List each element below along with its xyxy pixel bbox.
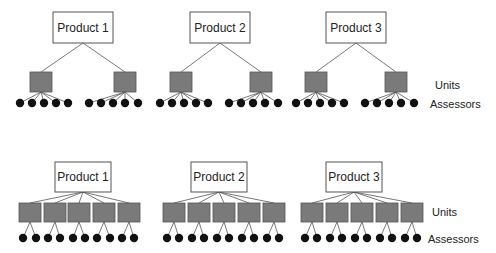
product-label: Product 2 [194, 21, 246, 35]
assessor-dot [32, 234, 40, 242]
assessor-dot [338, 234, 346, 242]
unit-box [188, 203, 210, 222]
product-unit-edge [181, 43, 220, 72]
product-unit-edge [316, 43, 356, 72]
experimental-design-diagram: Product 1Product 2Product 3Product 1Prod… [0, 0, 496, 253]
assessor-dot [81, 234, 89, 242]
product-unit-edge [219, 192, 274, 203]
product-unit-edge [41, 43, 83, 72]
unit-box [385, 72, 407, 92]
unit-assessor-edge [89, 92, 125, 103]
product-node: Product 3 [326, 12, 386, 43]
assessor-dot [376, 234, 384, 242]
product-node: Product 3 [326, 162, 382, 192]
assessor-dot [93, 234, 101, 242]
product-unit-edge [220, 43, 261, 72]
product-label: Product 3 [330, 21, 382, 35]
product-node: Product 2 [190, 12, 250, 43]
assessor-dot [225, 234, 233, 242]
assessor-dot [340, 99, 348, 107]
product-unit-edge [83, 192, 104, 203]
product-unit-edge [55, 192, 83, 203]
unit-box [263, 203, 285, 222]
assessor-dot [188, 234, 196, 242]
product-label: Product 3 [328, 170, 380, 184]
assessor-dot [213, 234, 221, 242]
assessor-dot [397, 99, 405, 107]
unit-box [170, 72, 192, 92]
assessor-dot [168, 99, 176, 107]
product-label: Product 2 [193, 170, 245, 184]
assessor-dot [69, 234, 77, 242]
unit-box [44, 203, 66, 222]
unit-box [351, 203, 373, 222]
assessor-dot [410, 99, 418, 107]
product-unit-edge [312, 192, 354, 203]
assessor-dot [109, 99, 117, 107]
assessor-dot [275, 234, 283, 242]
assessor-dot [163, 234, 171, 242]
assessor-dot [200, 234, 208, 242]
assessor-dot [204, 99, 212, 107]
product-unit-edge [174, 192, 219, 203]
assessors-label-top: Assessors [430, 98, 481, 110]
assessor-dot [130, 234, 138, 242]
assessors-label-bottom: Assessors [428, 233, 479, 245]
product-unit-edge [199, 192, 219, 203]
unit-box [118, 203, 140, 222]
assessor-dot [261, 99, 269, 107]
assessor-dot [385, 99, 393, 107]
assessor-dot [238, 234, 246, 242]
assessor-dot [292, 99, 300, 107]
unit-box [401, 203, 423, 222]
assessor-dot [316, 99, 324, 107]
assessor-dot [106, 234, 114, 242]
assessor-dot [44, 234, 52, 242]
legend-layer: Units Assessors Units Assessors [428, 79, 481, 245]
assessor-dot [351, 234, 359, 242]
unit-box [93, 203, 115, 222]
assessor-dot [19, 234, 27, 242]
assessor-dot [301, 234, 309, 242]
product-node: Product 1 [55, 162, 111, 192]
product-label: Product 1 [57, 170, 109, 184]
unit-box [19, 203, 41, 222]
product-node: Product 1 [53, 12, 113, 43]
assessor-dot [156, 99, 164, 107]
assessor-dot [40, 99, 48, 107]
unit-box [326, 203, 348, 222]
unit-box [114, 72, 136, 92]
assessor-dot [326, 234, 334, 242]
unit-box [163, 203, 185, 222]
assessor-dot [175, 234, 183, 242]
unit-box [301, 203, 323, 222]
assessor-dot [304, 99, 312, 107]
assessor-dot [237, 99, 245, 107]
assessor-dot [225, 99, 233, 107]
assessor-dot [56, 234, 64, 242]
product-unit-edge [30, 192, 83, 203]
unit-box [376, 203, 398, 222]
product-unit-edge [83, 43, 125, 72]
unit-box [213, 203, 235, 222]
unit-box [238, 203, 260, 222]
product-unit-edge [337, 192, 354, 203]
assessor-dot [134, 99, 142, 107]
assessor-dot [313, 234, 321, 242]
assessor-dot [180, 99, 188, 107]
assessor-dot [118, 234, 126, 242]
assessor-dot [16, 99, 24, 107]
unit-box [30, 72, 52, 92]
unit-box [250, 72, 272, 92]
assessor-dot [263, 234, 271, 242]
assessor-dot [97, 99, 105, 107]
assessor-dot [363, 234, 371, 242]
units-label-top: Units [435, 79, 461, 91]
nodes-layer: Product 1Product 2Product 3Product 1Prod… [16, 12, 423, 242]
product-unit-edge [83, 192, 129, 203]
assessor-dot [388, 234, 396, 242]
assessor-dot [373, 99, 381, 107]
assessor-dot [401, 234, 409, 242]
assessor-dot [413, 234, 421, 242]
product-unit-edge [356, 43, 396, 72]
